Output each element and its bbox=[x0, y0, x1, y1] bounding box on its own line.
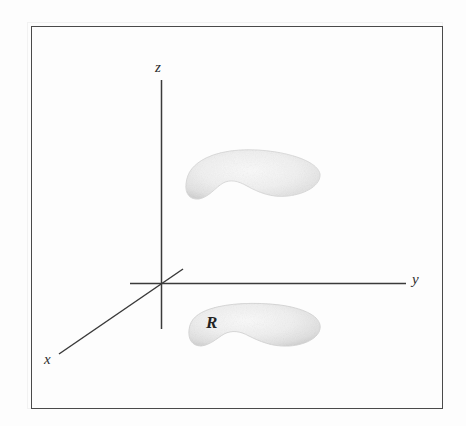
axis-label-x: x bbox=[44, 352, 51, 367]
axis-label-z: z bbox=[155, 60, 161, 75]
figure-container: z y x R bbox=[0, 0, 466, 426]
region-upper bbox=[186, 150, 320, 199]
axis-label-y: y bbox=[412, 272, 419, 287]
diagram-canvas bbox=[0, 0, 466, 426]
region-label-r: R bbox=[206, 314, 217, 331]
axis-line-x bbox=[59, 269, 183, 354]
